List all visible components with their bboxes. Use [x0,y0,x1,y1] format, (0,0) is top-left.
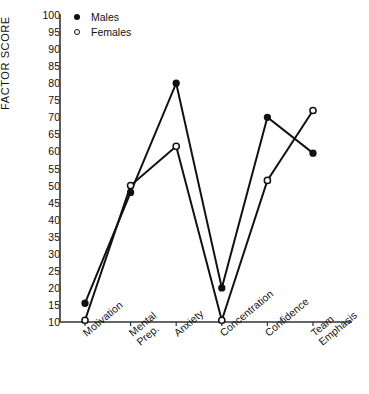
data-point-males-3 [219,285,225,291]
series-line-males [85,83,313,303]
series-line-females [85,111,313,321]
data-point-females-2 [173,143,179,149]
data-point-males-4 [265,114,271,120]
factor-score-line-chart: FACTOR SCORE 100959085807570656055504540… [0,0,369,394]
data-point-males-0 [82,300,88,306]
data-point-females-1 [128,182,134,188]
data-point-males-5 [310,150,316,156]
data-point-females-5 [310,107,316,113]
data-point-females-4 [264,177,270,183]
data-point-males-2 [173,80,179,86]
